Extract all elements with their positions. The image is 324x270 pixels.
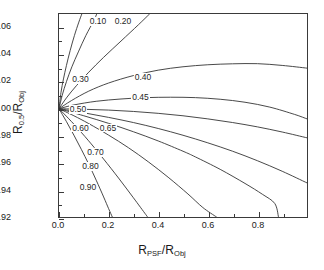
contour-label-0-70: 0.70: [86, 148, 105, 157]
contour-label-0-45: 0.45: [131, 93, 150, 102]
contour-label-0-50: 0.50: [69, 105, 88, 114]
contour-label-0-30: 0.30: [71, 75, 90, 84]
y-tick-label: 0.94: [0, 186, 11, 195]
plot-area: 0.100.200.300.400.450.500.600.650.700.80…: [58, 13, 308, 218]
y-axis-title-sub1: 0.5: [17, 115, 26, 125]
y-tick-major: [59, 192, 64, 193]
contour-label-0-65: 0.65: [99, 124, 118, 133]
contour-line-0-40: [59, 64, 307, 109]
y-tick-major: [59, 110, 64, 111]
y-tick-major: [59, 137, 64, 138]
y-tick-label: 0.92: [0, 213, 11, 222]
x-tick-minor: [184, 214, 185, 217]
x-tick-label: 0.2: [91, 221, 125, 230]
x-tick-label: 0.0: [41, 221, 75, 230]
y-tick-major: [59, 82, 64, 83]
y-tick-label: 1.04: [0, 49, 11, 58]
y-tick-minor: [59, 205, 62, 206]
y-axis-title-main: R: [11, 125, 25, 134]
y-tick-minor: [59, 96, 62, 97]
x-tick-minor: [284, 214, 285, 217]
x-axis-title-sub2: Obj: [174, 249, 186, 258]
y-tick-major: [59, 164, 64, 165]
y-tick-major: [59, 55, 64, 56]
contour-plot-figure: 0.100.200.300.400.450.500.600.650.700.80…: [0, 0, 324, 270]
y-tick-major: [59, 28, 64, 29]
y-tick-label: 1.02: [0, 76, 11, 85]
contour-label-0-80: 0.80: [81, 162, 100, 171]
contour-label-0-20: 0.20: [114, 17, 133, 26]
x-axis-title-main: R: [138, 243, 147, 257]
y-tick-label: 0.96: [0, 158, 11, 167]
x-axis-title: RPSF/RObj: [0, 243, 324, 258]
contour-label-0-60: 0.60: [71, 124, 90, 133]
x-tick-label: 0.8: [241, 221, 275, 230]
y-axis-title: R0.5/RObj: [11, 43, 26, 183]
x-tick-major: [259, 212, 260, 217]
x-tick-major: [159, 212, 160, 217]
y-tick-label: 1.06: [0, 22, 11, 31]
contour-label-0-40: 0.40: [134, 73, 153, 82]
x-axis-title-sub1: PSF: [147, 249, 162, 258]
contour-label-0-90: 0.90: [79, 183, 98, 192]
y-axis-title-mid: /R: [11, 103, 25, 115]
contour-line-0-20: [59, 14, 97, 109]
x-tick-minor: [134, 214, 135, 217]
y-axis-title-sub2: Obj: [17, 91, 26, 103]
x-tick-minor: [84, 214, 85, 217]
y-tick-minor: [59, 151, 62, 152]
y-tick-minor: [59, 178, 62, 179]
y-tick-label: 1.00: [0, 104, 11, 113]
y-tick-minor: [59, 123, 62, 124]
x-tick-label: 0.6: [191, 221, 225, 230]
y-tick-minor: [59, 41, 62, 42]
x-tick-minor: [234, 214, 235, 217]
x-tick-major: [59, 212, 60, 217]
y-tick-minor: [59, 69, 62, 70]
contour-line-0-50: [59, 109, 307, 138]
x-tick-major: [209, 212, 210, 217]
x-axis-title-mid: /R: [162, 243, 174, 257]
x-tick-label: 0.4: [141, 221, 175, 230]
contour-label-0-10: 0.10: [89, 17, 108, 26]
y-tick-label: 0.98: [0, 131, 11, 140]
x-tick-major: [109, 212, 110, 217]
